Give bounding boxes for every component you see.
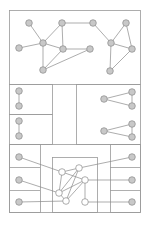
node-r2	[129, 89, 136, 96]
node-r4	[101, 128, 108, 135]
open-node-c4	[56, 190, 63, 197]
node-t6	[40, 40, 47, 47]
node-l1	[16, 88, 23, 95]
node-r6	[129, 134, 136, 141]
node-l2	[16, 103, 23, 110]
edge-c2-c5	[66, 168, 79, 201]
edge-bl3-c5	[19, 201, 66, 202]
node-t3	[90, 20, 97, 27]
edge-t12-t10	[110, 49, 132, 71]
node-bl2	[16, 177, 23, 184]
node-l3	[16, 118, 23, 125]
node-t12	[107, 68, 114, 75]
node-bl3	[16, 199, 23, 206]
node-t2	[59, 20, 66, 27]
node-t5	[16, 45, 23, 52]
edge-t4-t10	[126, 23, 132, 49]
edge-br1-c2	[79, 157, 132, 168]
node-br1	[129, 154, 136, 161]
edge-r1-r3	[104, 99, 132, 106]
edge-t6-t2	[43, 23, 62, 43]
edge-r1-r2	[104, 92, 132, 99]
edge-t2-t7	[62, 23, 63, 49]
edge-t9-t12	[110, 43, 111, 71]
node-r3	[129, 103, 136, 110]
open-node-c2	[76, 165, 83, 172]
node-br2	[129, 177, 136, 184]
panel-bottom-left-col	[10, 145, 41, 213]
edges	[19, 23, 132, 202]
open-node-c5	[63, 198, 70, 205]
edge-t5-t6	[19, 43, 43, 48]
edge-t3-t9	[93, 23, 111, 43]
node-t4	[123, 20, 130, 27]
edge-t11-t8	[43, 49, 90, 70]
node-t11	[40, 67, 47, 74]
edge-r4-r5	[104, 124, 132, 131]
node-t9	[108, 40, 115, 47]
node-br3	[129, 199, 136, 206]
panels	[10, 11, 141, 213]
edge-r4-r6	[104, 131, 132, 137]
open-node-c1	[59, 169, 66, 176]
node-t8	[87, 46, 94, 53]
node-t10	[129, 46, 136, 53]
node-l4	[16, 133, 23, 140]
edge-t9-t4	[111, 23, 126, 43]
graph-diagram	[0, 0, 151, 233]
edge-c1-c3	[62, 172, 85, 180]
open-node-c3	[82, 177, 89, 184]
edge-t1-t6	[29, 23, 43, 43]
node-bl1	[16, 154, 23, 161]
edge-bl2-c4	[19, 180, 59, 193]
node-r1	[101, 96, 108, 103]
edge-c3-c5	[66, 180, 85, 201]
node-r5	[129, 121, 136, 128]
node-t1	[26, 20, 33, 27]
open-node-c6	[82, 199, 89, 206]
edge-t7-t11	[43, 49, 63, 70]
node-t7	[60, 46, 67, 53]
